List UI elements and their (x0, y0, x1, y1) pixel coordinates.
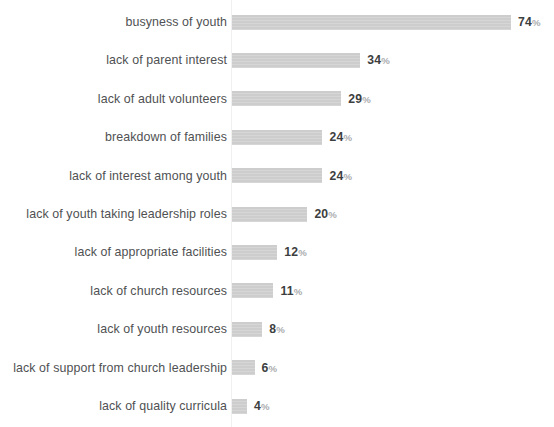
bar (232, 53, 360, 68)
bar-value-label: 29% (348, 93, 371, 105)
bar-value-number: 6 (262, 361, 269, 375)
horizontal-bar-chart: busyness of youth74%lack of parent inter… (0, 0, 554, 427)
category-label: lack of parent interest (0, 54, 227, 66)
bar-track: 12% (227, 233, 554, 271)
bar-value-label: 24% (329, 170, 352, 182)
category-label: lack of youth resources (0, 323, 227, 335)
bar-value-label: 12% (284, 246, 307, 258)
percent-sign: % (343, 171, 352, 182)
bar-row: lack of interest among youth24% (0, 157, 554, 195)
bar (232, 283, 273, 298)
bar-value-label: 74% (518, 16, 541, 28)
percent-sign: % (294, 286, 303, 297)
bar-value-label: 24% (329, 131, 352, 143)
category-label: lack of interest among youth (0, 170, 227, 182)
percent-sign: % (269, 363, 278, 374)
percent-sign: % (276, 324, 285, 335)
percent-sign: % (362, 94, 371, 105)
category-label: lack of youth taking leadership roles (0, 208, 227, 220)
percent-sign: % (343, 132, 352, 143)
bar-row: lack of church resources11% (0, 272, 554, 310)
bar-row: lack of youth taking leadership roles20% (0, 195, 554, 233)
bar-value-number: 20 (314, 207, 328, 221)
bar-track: 24% (227, 157, 554, 195)
percent-sign: % (328, 209, 337, 220)
percent-sign: % (381, 55, 390, 66)
bar-row: lack of support from church leadership6% (0, 349, 554, 387)
bar-track: 4% (227, 387, 554, 425)
bar-row: lack of adult volunteers29% (0, 80, 554, 118)
bar-value-number: 4 (254, 399, 261, 413)
bar (232, 360, 255, 375)
bar (232, 322, 262, 337)
bar-row: lack of quality curricula4% (0, 387, 554, 425)
bar-value-label: 20% (314, 208, 337, 220)
category-label: busyness of youth (0, 16, 227, 28)
bar-row: lack of appropriate facilities12% (0, 233, 554, 271)
bar (232, 91, 341, 106)
bar-track: 8% (227, 310, 554, 348)
bar (232, 168, 322, 183)
category-label: lack of adult volunteers (0, 93, 227, 105)
bar-value-number: 24 (329, 130, 343, 144)
bar (232, 130, 322, 145)
bar-row: breakdown of families24% (0, 118, 554, 156)
bar (232, 15, 511, 30)
bar-track: 24% (227, 118, 554, 156)
bar (232, 207, 307, 222)
bar-row: busyness of youth74% (0, 3, 554, 41)
bar-row: lack of parent interest34% (0, 41, 554, 79)
bar-track: 29% (227, 80, 554, 118)
percent-sign: % (298, 247, 307, 258)
category-label: breakdown of families (0, 131, 227, 143)
bar-value-number: 12 (284, 245, 298, 259)
bar-track: 20% (227, 195, 554, 233)
bar-track: 74% (227, 3, 554, 41)
category-label: lack of quality curricula (0, 400, 227, 412)
bar-row: lack of youth resources8% (0, 310, 554, 348)
category-label: lack of church resources (0, 285, 227, 297)
percent-sign: % (532, 17, 541, 28)
bar-track: 6% (227, 349, 554, 387)
bar-value-label: 8% (269, 323, 285, 335)
bar-value-number: 24 (329, 169, 343, 183)
bar-track: 11% (227, 272, 554, 310)
bar-value-number: 74 (518, 15, 532, 29)
bar-value-number: 11 (280, 284, 293, 298)
category-label: lack of appropriate facilities (0, 246, 227, 258)
bar-value-label: 6% (262, 362, 278, 374)
bar (232, 399, 247, 414)
category-label: lack of support from church leadership (0, 362, 227, 374)
bar-value-number: 34 (367, 53, 381, 67)
bar (232, 245, 277, 260)
bar-value-label: 11% (280, 285, 302, 297)
bar-track: 34% (227, 41, 554, 79)
bar-value-label: 4% (254, 400, 270, 412)
bar-value-label: 34% (367, 54, 390, 66)
bar-value-number: 29 (348, 92, 362, 106)
percent-sign: % (261, 401, 270, 412)
